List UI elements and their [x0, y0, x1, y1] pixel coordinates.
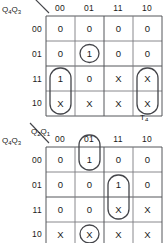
header-diagonal — [34, 0, 49, 13]
row-variables-label: Q4Q3 — [2, 5, 22, 15]
cell-r3c3: X — [144, 98, 151, 109]
col-header-1: 01 — [84, 3, 94, 13]
cell-r0c2: 0 — [116, 23, 121, 34]
cell-2-r1c3: 0 — [145, 179, 150, 190]
cell-r1c1: 1 — [87, 48, 92, 59]
cell-2-r3c2: X — [115, 229, 122, 240]
cell-r2c2: X — [115, 73, 122, 84]
row-header-3: 10 — [32, 98, 42, 108]
cell-2-r0c3: 0 — [145, 154, 150, 165]
row-header-2-2: 11 — [33, 205, 42, 215]
cell-r3c0: X — [57, 98, 64, 109]
cell-2-r3c0: X — [57, 229, 64, 240]
cell-2-r0c2: 0 — [116, 154, 121, 165]
row-header-2-1: 01 — [32, 180, 42, 190]
col-header-2-3: 10 — [142, 134, 152, 144]
cell-2-r2c0: 0 — [58, 204, 63, 215]
cell-r0c3: 0 — [145, 23, 150, 34]
kmap-second-canvas: Q4Q3 Q2Q1 00 01 11 10 00 01 11 10 0 1 0 … — [0, 121, 166, 243]
row-header-0: 00 — [32, 24, 42, 34]
row-header-2-3: 10 — [32, 229, 42, 239]
row-header-2-0: 00 — [32, 155, 42, 165]
col-header-2-0: 00 — [55, 134, 65, 144]
cell-2-r0c1: 1 — [87, 154, 92, 165]
cell-2-r3c3: X — [144, 229, 151, 240]
karnaugh-map-second: Q4Q3 Q2Q1 00 01 11 10 00 01 11 10 0 1 0 … — [0, 121, 166, 243]
kmap-t4-canvas: Q4Q3 00 01 11 10 00 01 11 10 0 0 0 0 0 1… — [0, 0, 166, 121]
cell-r2c3: X — [144, 73, 151, 84]
cell-r1c3: 0 — [145, 48, 150, 59]
cell-r3c1: X — [86, 98, 93, 109]
cell-2-r2c3: X — [144, 204, 151, 215]
col-header-0: 00 — [55, 3, 65, 13]
cell-r0c0: 0 — [58, 23, 63, 34]
cell-r0c1: 0 — [87, 23, 92, 34]
cell-2-r1c1: 0 — [87, 179, 92, 190]
cell-2-r2c2: X — [115, 204, 122, 215]
cell-r1c0: 0 — [58, 48, 63, 59]
row-header-1: 01 — [32, 49, 42, 59]
row-header-2: 11 — [33, 74, 42, 84]
cell-r2c1: 0 — [87, 73, 92, 84]
karnaugh-map-t4: Q4Q3 00 01 11 10 00 01 11 10 0 0 0 0 0 1… — [0, 0, 166, 121]
cell-r1c2: 0 — [116, 48, 121, 59]
row-variables-label-2: Q4Q3 — [2, 136, 22, 146]
cell-2-r1c2: 1 — [116, 179, 121, 190]
col-header-2: 11 — [113, 3, 122, 13]
col-variables-label-2: Q2Q1 — [31, 127, 51, 137]
cell-2-r0c0: 0 — [58, 154, 63, 165]
cell-2-r2c1: 0 — [87, 204, 92, 215]
cell-r2c0: 1 — [58, 73, 63, 84]
cell-r3c2: X — [115, 98, 122, 109]
cell-2-r1c0: 0 — [58, 179, 63, 190]
col-header-2-2: 11 — [113, 134, 122, 144]
cell-2-r3c1: X — [86, 229, 93, 240]
col-header-3: 10 — [142, 3, 152, 13]
